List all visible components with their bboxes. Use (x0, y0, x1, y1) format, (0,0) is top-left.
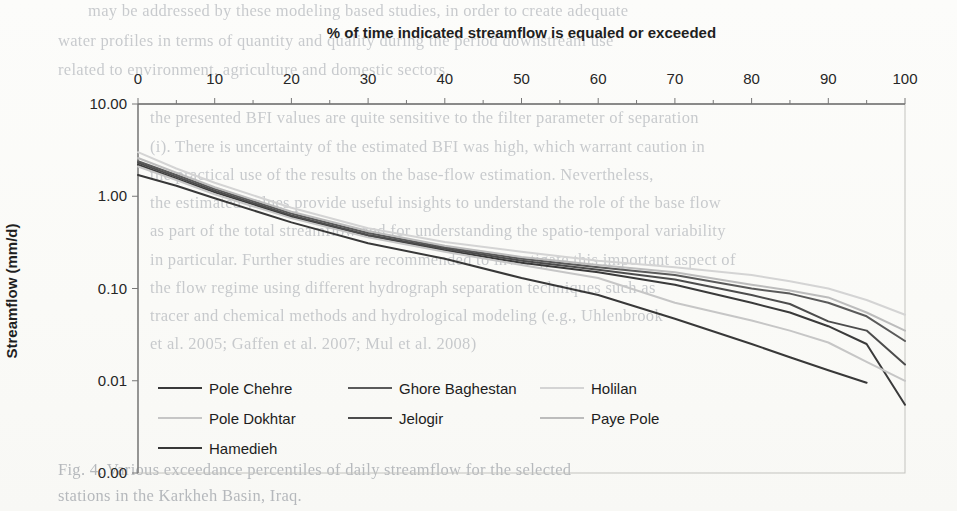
legend-item-pole-dokhtar: Pole Dokhtar (158, 410, 296, 426)
legend-label: Pole Chehre (209, 380, 292, 397)
scanned-paper-page: may be addressed by these modeling based… (0, 0, 957, 511)
chart-legend: Pole ChehreGhore BaghestanHolilanPole Do… (0, 0, 957, 511)
legend-label: Hamedieh (209, 440, 277, 457)
legend-label: Paye Pole (591, 410, 659, 427)
legend-item-hamedieh: Hamedieh (158, 440, 277, 456)
legend-line-swatch (348, 387, 392, 389)
legend-line-swatch (348, 417, 392, 419)
legend-item-holilan: Holilan (540, 380, 637, 396)
legend-label: Holilan (591, 380, 637, 397)
legend-label: Pole Dokhtar (209, 410, 296, 427)
legend-item-jelogir: Jelogir (348, 410, 443, 426)
legend-item-pole-chehre: Pole Chehre (158, 380, 292, 396)
legend-label: Ghore Baghestan (399, 380, 517, 397)
legend-line-swatch (158, 387, 202, 389)
legend-line-swatch (158, 447, 202, 449)
legend-item-ghore-baghestan: Ghore Baghestan (348, 380, 517, 396)
legend-line-swatch (540, 387, 584, 389)
legend-item-paye-pole: Paye Pole (540, 410, 659, 426)
legend-line-swatch (158, 417, 202, 419)
legend-line-swatch (540, 417, 584, 419)
legend-label: Jelogir (399, 410, 443, 427)
